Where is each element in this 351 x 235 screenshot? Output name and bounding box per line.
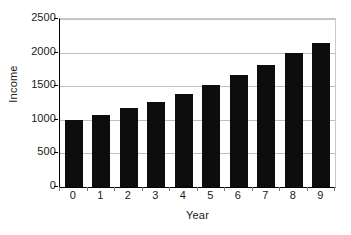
x-axis-title: Year (59, 209, 336, 221)
bar[interactable] (65, 120, 83, 187)
bar-chart: Income 05001000150020002500 0123456789 Y… (0, 0, 351, 235)
x-axis-tick-mark (142, 187, 143, 191)
x-axis-tick-label: 5 (200, 189, 220, 202)
y-axis-tick-mark (54, 52, 58, 53)
x-axis-tick-label: 9 (310, 189, 330, 202)
y-axis-tick-label: 2500 (31, 12, 56, 23)
x-axis-tick-label: 8 (283, 189, 303, 202)
y-axis-tick-mark (54, 152, 58, 153)
x-axis-tick-label: 4 (173, 189, 193, 202)
y-axis-tick-mark (54, 119, 58, 120)
x-axis-tick-label: 2 (118, 189, 138, 202)
x-axis-tick-mark (87, 187, 88, 191)
x-axis-tick-mark (59, 187, 60, 191)
bar[interactable] (175, 94, 193, 187)
x-axis-tick-mark (307, 187, 308, 191)
bar[interactable] (147, 102, 165, 187)
x-axis-ticklabels: 0123456789 (59, 189, 336, 205)
x-axis-tick-mark (114, 187, 115, 191)
bar[interactable] (92, 115, 110, 187)
x-axis-tick-mark (197, 187, 198, 191)
x-axis-tick-mark (224, 187, 225, 191)
y-axis-tick-label: 1000 (31, 113, 56, 124)
x-axis-tick-label: 7 (255, 189, 275, 202)
x-axis-tick-mark (279, 187, 280, 191)
y-axis-ticklabels: 05001000150020002500 (0, 0, 56, 235)
bar[interactable] (312, 43, 330, 187)
x-axis-tick-mark (169, 187, 170, 191)
y-axis-tick-mark (54, 85, 58, 86)
bar[interactable] (120, 108, 138, 187)
x-axis-tick-label: 1 (90, 189, 110, 202)
bars-layer (60, 19, 335, 187)
bar[interactable] (202, 85, 220, 187)
bar[interactable] (257, 65, 275, 187)
y-axis-tick-label: 1500 (31, 79, 56, 90)
x-axis-tick-label: 0 (63, 189, 83, 202)
plot-area (59, 18, 336, 188)
x-axis-tick-mark (252, 187, 253, 191)
x-axis-tick-label: 3 (145, 189, 165, 202)
bar[interactable] (285, 53, 303, 187)
y-axis-tick-label: 2000 (31, 46, 56, 57)
x-axis-tick-label: 6 (228, 189, 248, 202)
x-axis-tick-mark (334, 187, 335, 191)
y-axis-tick-mark (54, 18, 58, 19)
bar[interactable] (230, 75, 248, 187)
y-axis-tick-mark (54, 186, 58, 187)
